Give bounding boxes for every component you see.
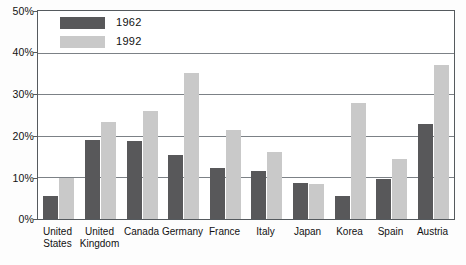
legend-item-1992: 1992 [60, 35, 165, 49]
chart-legend: 1962 1992 [60, 14, 165, 54]
bar-1992 [226, 130, 241, 219]
bar-group [418, 11, 449, 219]
bar-1962 [85, 140, 100, 219]
bar-1962 [43, 196, 58, 219]
bar-1962 [210, 168, 225, 219]
legend-swatch-1992 [60, 36, 105, 48]
bar-group [168, 11, 199, 219]
y-tick-label-20: 20% [0, 130, 34, 142]
bar-1992 [267, 152, 282, 219]
bar-1962 [376, 179, 391, 219]
bar-group [251, 11, 282, 219]
y-tick-label-10: 10% [0, 172, 34, 184]
x-axis-label: Austria [403, 226, 463, 238]
bar-1962 [335, 196, 350, 219]
bar-group [293, 11, 324, 219]
bar-1962 [418, 124, 433, 219]
bar-chart-figure: 50% 40% 30% 20% 10% 0% UnitedStatesUnite… [0, 0, 466, 265]
bar-1962 [127, 141, 142, 219]
bar-1992 [59, 178, 74, 219]
x-axis-label-line: Austria [403, 226, 463, 238]
bar-1992 [184, 73, 199, 219]
bar-1992 [143, 111, 158, 219]
x-axis-label-line: Kingdom [70, 238, 130, 250]
legend-label-1962: 1962 [116, 16, 142, 28]
bar-1992 [101, 122, 116, 219]
bar-1992 [434, 65, 449, 219]
y-tick-label-30: 30% [0, 88, 34, 100]
bar-1992 [309, 184, 324, 219]
bar-group [376, 11, 407, 219]
y-tick-label-40: 40% [0, 46, 34, 58]
legend-label-1992: 1992 [116, 35, 142, 47]
bar-1992 [392, 159, 407, 219]
bar-group [335, 11, 366, 219]
legend-swatch-1962 [60, 17, 105, 29]
bar-1962 [251, 171, 266, 219]
y-tick-label-50: 50% [0, 5, 34, 17]
y-tick-label-0: 0% [0, 213, 34, 225]
bar-1992 [351, 103, 366, 219]
bar-1962 [168, 155, 183, 219]
bar-group [210, 11, 241, 219]
bar-1962 [293, 183, 308, 219]
legend-item-1962: 1962 [60, 16, 165, 30]
